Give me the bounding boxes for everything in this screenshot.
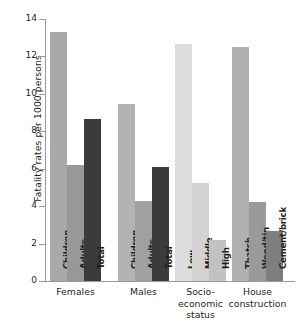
y-tick-label-14: 14 — [7, 14, 37, 23]
bar-label: Total — [165, 247, 174, 269]
y-tick-8 — [39, 131, 45, 132]
bar-males-children[interactable]: Children — [118, 104, 135, 281]
bar-socio-economic-status-middle[interactable]: Middle — [192, 183, 209, 281]
group-label-line: construction — [208, 298, 304, 310]
y-tick-0 — [39, 281, 45, 282]
group-label-line: House — [208, 286, 304, 298]
bar-label: Cement/brick — [279, 207, 288, 269]
group-label-house-construction: Houseconstruction — [208, 286, 304, 309]
bar-label: High — [222, 248, 231, 270]
x-axis-line — [45, 281, 295, 282]
bar-chart-figure: Fatality rates per 1000 persons 0 2 4 6 … — [0, 0, 303, 329]
y-tick-label-10: 10 — [7, 89, 37, 98]
y-axis-line — [45, 19, 46, 282]
plot-area: ChildrenAdultsTotalChildrenAdultsTotalLo… — [47, 19, 295, 281]
bar-label: Total — [97, 247, 106, 269]
bar-males-total[interactable]: Total — [152, 167, 169, 281]
bar-house-construction-wood-tin[interactable]: Wood/tin — [249, 202, 266, 281]
y-tick-label-2: 2 — [7, 239, 37, 248]
y-tick-14 — [39, 19, 45, 20]
bar-females-children[interactable]: Children — [50, 32, 67, 281]
y-tick-10 — [39, 94, 45, 95]
bar-males-adults[interactable]: Adults — [135, 201, 152, 281]
bar-females-total[interactable]: Total — [84, 119, 101, 281]
group-label-line: status — [151, 309, 251, 321]
bar-socio-economic-status-high[interactable]: High — [209, 240, 226, 281]
y-tick-2 — [39, 244, 45, 245]
y-tick-6 — [39, 169, 45, 170]
y-tick-label-4: 4 — [7, 201, 37, 210]
y-tick-label-0: 0 — [7, 276, 37, 285]
y-tick-label-6: 6 — [7, 164, 37, 173]
bar-socio-economic-status-low[interactable]: Low — [175, 44, 192, 281]
y-tick-4 — [39, 206, 45, 207]
bar-females-adults[interactable]: Adults — [67, 165, 84, 281]
y-tick-label-8: 8 — [7, 126, 37, 135]
y-tick-label-12: 12 — [7, 51, 37, 60]
bar-house-construction-thatch[interactable]: Thatch — [232, 47, 249, 281]
y-tick-12 — [39, 56, 45, 57]
bar-house-construction-cement-brick[interactable]: Cement/brick — [266, 231, 283, 281]
